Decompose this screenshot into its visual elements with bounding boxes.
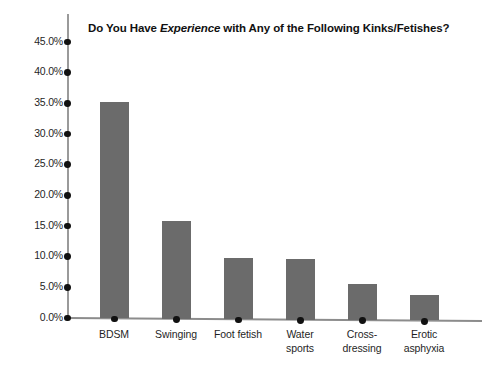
bar-group: Foot fetish [207, 0, 269, 381]
bar-group: BDSM [83, 0, 145, 381]
x-axis-category-label-line: Cross- [331, 328, 393, 342]
x-axis-category-label-line: Water [269, 328, 331, 342]
x-axis-category-label-line: Swinging [145, 328, 207, 342]
x-axis-category-label-line: dressing [331, 342, 393, 356]
bar-group: Cross-dressing [331, 0, 393, 381]
x-axis-tick-dot-icon [297, 317, 304, 324]
x-axis-tick-dot-icon [359, 317, 366, 324]
x-axis-category-label: Cross-dressing [331, 328, 393, 355]
bar[interactable] [162, 221, 191, 319]
bar-group: Eroticasphyxia [393, 0, 455, 381]
x-axis-category-label: Watersports [269, 328, 331, 355]
bars-layer: BDSMSwingingFoot fetishWatersportsCross-… [0, 0, 490, 381]
x-axis-tick-dot-icon [111, 316, 118, 323]
x-axis-category-label: Foot fetish [207, 328, 269, 342]
x-axis-category-label-line: sports [269, 342, 331, 356]
plot-area: 0.0%5.0%10.0%15.0%20.0%25.0%30.0%35.0%40… [0, 0, 490, 381]
bar-group: Watersports [269, 0, 331, 381]
bar[interactable] [100, 102, 129, 319]
x-axis-category-label: BDSM [83, 328, 145, 342]
x-axis-tick-dot-icon [173, 316, 180, 323]
bar[interactable] [410, 295, 439, 321]
x-axis-tick-dot-icon [235, 317, 242, 324]
x-axis-category-label-line: Erotic [393, 328, 455, 342]
x-axis-category-label-line: asphyxia [393, 342, 455, 356]
bar[interactable] [224, 258, 253, 319]
bar-group: Swinging [145, 0, 207, 381]
bar[interactable] [286, 259, 315, 320]
x-axis-category-label: Eroticasphyxia [393, 328, 455, 355]
bar[interactable] [348, 284, 377, 320]
x-axis-category-label-line: BDSM [83, 328, 145, 342]
x-axis-category-label: Swinging [145, 328, 207, 342]
x-axis-tick-dot-icon [421, 318, 428, 325]
x-axis-category-label-line: Foot fetish [207, 328, 269, 342]
bar-chart: Do You Have Experience with Any of the F… [0, 0, 490, 381]
